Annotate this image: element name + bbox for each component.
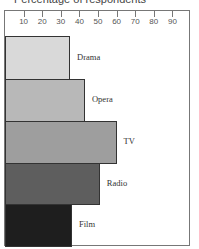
bar-label-tv: TV — [124, 136, 135, 146]
x-tick — [61, 10, 62, 17]
x-tick — [135, 10, 136, 17]
x-tick-label: 30 — [56, 17, 65, 26]
x-tick — [42, 10, 43, 17]
bar-film — [5, 204, 72, 247]
x-tick — [79, 10, 80, 17]
bar-opera — [5, 79, 85, 122]
bar-tv — [5, 121, 117, 164]
bar-radio — [5, 163, 100, 205]
x-tick — [24, 10, 25, 17]
bar-label-opera: Opera — [92, 94, 113, 104]
bar-label-drama: Drama — [77, 52, 100, 62]
bar-label-radio: Radio — [107, 178, 127, 188]
x-tick-label: 90 — [168, 17, 177, 26]
x-tick-label: 70 — [131, 17, 140, 26]
x-tick — [172, 10, 173, 17]
x-tick-label: 10 — [19, 17, 28, 26]
x-tick — [117, 10, 118, 17]
chart-title: Percentage of respondents — [0, 0, 160, 5]
x-tick — [98, 10, 99, 17]
x-tick-label: 80 — [149, 17, 158, 26]
x-tick-label: 20 — [38, 17, 47, 26]
x-tick-label: 60 — [112, 17, 121, 26]
x-tick-label: 40 — [75, 17, 84, 26]
x-tick — [154, 10, 155, 17]
x-tick-label: 50 — [94, 17, 103, 26]
bar-drama — [5, 36, 70, 80]
bar-label-film: Film — [79, 219, 95, 229]
